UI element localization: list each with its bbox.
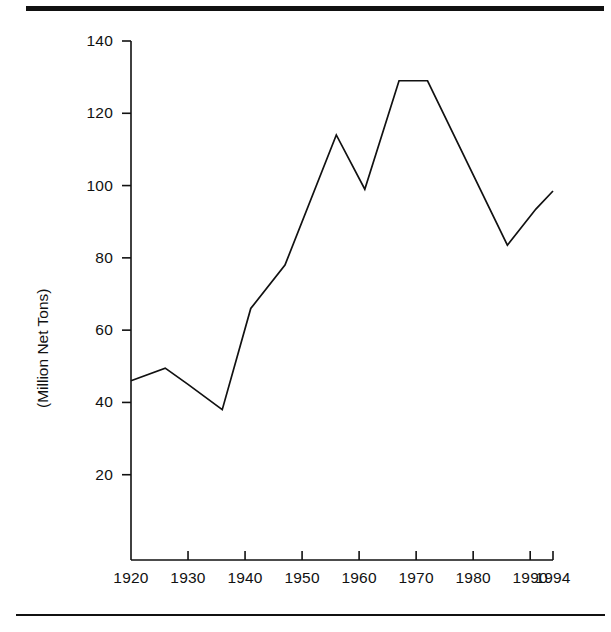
x-tick-label: 1980	[456, 569, 491, 587]
y-tick-label: 80	[45, 249, 113, 267]
line-chart-plot	[0, 0, 611, 632]
x-tick-marks	[188, 551, 553, 560]
x-tick-label: 1960	[341, 569, 376, 587]
y-tick-label: 140	[45, 32, 113, 50]
figure-container: (Million Net Tons) 20406080100120140 192…	[0, 0, 611, 632]
y-tick-marks	[122, 41, 131, 475]
y-axis-title: (Million Net Tons)	[34, 289, 52, 408]
x-tick-label: 1920	[113, 569, 148, 587]
x-tick-label: 1994	[535, 569, 570, 587]
y-tick-label: 20	[45, 466, 113, 484]
axes-group	[131, 41, 553, 560]
x-tick-label: 1930	[170, 569, 205, 587]
y-tick-label: 40	[45, 393, 113, 411]
y-tick-label: 60	[45, 321, 113, 339]
y-tick-label: 120	[45, 104, 113, 122]
x-tick-label: 1970	[398, 569, 433, 587]
y-tick-label: 100	[45, 177, 113, 195]
x-tick-label: 1950	[284, 569, 319, 587]
data-series-group	[131, 81, 553, 410]
series-line	[131, 81, 553, 410]
x-tick-label: 1940	[227, 569, 262, 587]
